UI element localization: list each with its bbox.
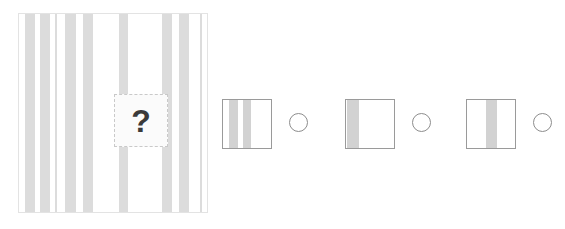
option-2-radio[interactable] — [412, 113, 431, 132]
stripe-1 — [25, 14, 35, 212]
question-cutout[interactable]: ? — [114, 94, 168, 147]
stripe-1 — [347, 100, 359, 148]
stripe-4 — [65, 14, 76, 212]
pattern-puzzle: ? — [0, 0, 565, 229]
option-1-swatch[interactable] — [222, 99, 272, 149]
question-mark-label: ? — [131, 105, 151, 137]
option-3-radio[interactable] — [533, 113, 552, 132]
stripe-9 — [200, 14, 202, 212]
stripe-2 — [243, 100, 251, 148]
stripe-5 — [83, 14, 93, 212]
stripe-3 — [55, 14, 57, 212]
stripe-2 — [40, 14, 50, 212]
option-3-swatch[interactable] — [466, 99, 516, 149]
option-1-radio[interactable] — [289, 113, 308, 132]
stripe-1 — [229, 100, 238, 148]
stripe-8 — [179, 14, 189, 212]
stripe-1 — [486, 100, 497, 148]
option-2-swatch[interactable] — [345, 99, 395, 149]
striped-pattern-panel: ? — [18, 13, 208, 213]
